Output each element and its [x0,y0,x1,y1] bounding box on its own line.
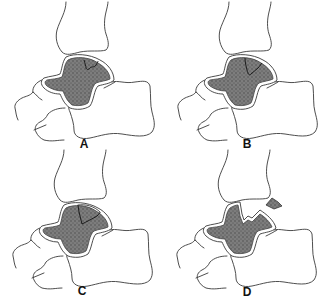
talus [41,55,114,110]
panel-a [15,2,154,141]
panel-label-d: D [237,285,257,299]
ankle-diagram-figure [0,0,326,302]
panel-label-c: C [72,284,92,298]
tibia [56,2,108,54]
talus [204,55,277,110]
panel-b [178,2,317,141]
panel-label-b: B [237,137,257,151]
talus [39,203,112,258]
displaced-fragment [266,198,282,209]
tibia [218,150,270,202]
panel-c [13,150,152,289]
tibia [219,2,271,54]
panel-d [177,150,316,289]
talus [203,202,276,257]
tibia [54,150,106,202]
panel-label-a: A [74,137,94,151]
